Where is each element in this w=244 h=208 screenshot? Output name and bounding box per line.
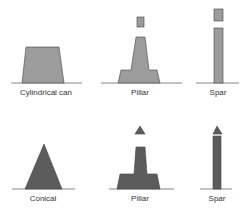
spar-top-figure (196, 9, 239, 83)
label-cylindrical-can: Cylindrical can (20, 88, 72, 97)
spar-column (214, 28, 223, 83)
platform-types-diagram (0, 0, 244, 208)
pillar-topside-block (137, 17, 144, 27)
label-conical: Conical (30, 194, 57, 203)
spar-bottom-figure (200, 126, 232, 189)
spar-column (213, 136, 221, 189)
label-spar-bottom: Spar (209, 194, 226, 203)
cylindrical-can-shape (22, 47, 64, 83)
conical-shape (25, 144, 62, 189)
cylindrical-can-figure (11, 47, 82, 83)
pillar-triangle-top (135, 126, 145, 134)
label-pillar-bottom: Pillar (131, 194, 149, 203)
conical-figure (12, 144, 75, 189)
pillar-bottom-figure (109, 126, 174, 189)
spar-topside-block (214, 9, 223, 21)
pillar-shape (117, 147, 160, 189)
pillar-top-figure (101, 17, 182, 83)
spar-triangle-top (213, 126, 222, 134)
pillar-shape (118, 37, 160, 83)
label-pillar-top: Pillar (131, 88, 149, 97)
label-spar-top: Spar (210, 88, 227, 97)
